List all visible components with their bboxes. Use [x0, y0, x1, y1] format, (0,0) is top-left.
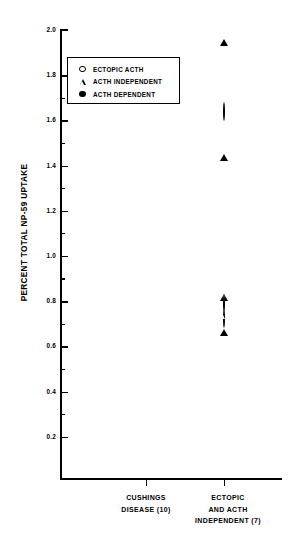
y-tick-label-0.8: 0.8 [47, 297, 56, 304]
y-tick-label-1.6: 1.6 [47, 116, 56, 123]
y-axis-line [60, 29, 62, 479]
y-axis-label: PERCENT TOTAL NP-59 UPTAKE [20, 133, 29, 333]
y-tick-minor-1.3 [60, 188, 65, 189]
data-point [220, 137, 228, 155]
y-tick-0.4 [60, 392, 68, 393]
legend: ECTOPIC ACTH ACTH INDEPENDENT ACTH DEPEN… [67, 57, 180, 104]
y-tick-minor-0.9 [60, 278, 65, 279]
y-tick-label-2.0: 2.0 [47, 26, 56, 33]
y-tick-minor-1.7 [60, 98, 65, 99]
y-tick-label-1.4: 1.4 [47, 162, 56, 169]
y-tick-1.6 [60, 120, 68, 121]
y-tick-1.4 [60, 166, 68, 167]
y-tick-label-0.6: 0.6 [47, 342, 56, 349]
y-tick-minor-0.3 [60, 414, 65, 415]
y-tick-label-0.2: 0.2 [47, 433, 56, 440]
x-group-label-ectopic: ECTOPIC AND ACTH INDEPENDENT (7) [168, 492, 288, 527]
y-tick-1.0 [60, 256, 68, 257]
legend-item-ectopic-acth: ECTOPIC ACTH [76, 63, 143, 76]
x-tick-ectopic [224, 478, 225, 486]
legend-item-acth-dependent: ACTH DEPENDENT [76, 88, 155, 101]
y-tick-label-1.8: 1.8 [47, 71, 56, 78]
y-tick-1.2 [60, 211, 68, 212]
y-tick-0.8 [60, 301, 68, 302]
y-tick-0.2 [60, 437, 68, 438]
legend-item-acth-independent: ACTH INDEPENDENT [76, 75, 162, 88]
data-point [220, 312, 228, 330]
y-tick-0.6 [60, 346, 68, 347]
open-triangle-icon [76, 79, 89, 85]
y-tick-minor-1.5 [60, 143, 65, 144]
legend-label: ACTH DEPENDENT [93, 91, 155, 98]
x-axis-line [60, 478, 282, 480]
open-circle-icon [76, 66, 89, 73]
y-tick-minor-0.7 [60, 324, 65, 325]
scatter-plot-figure: PERCENT TOTAL NP-59 UPTAKE 2.0 1.8 1.6 1… [0, 0, 289, 537]
y-tick-label-0.4: 0.4 [47, 388, 56, 395]
data-point [220, 22, 228, 40]
legend-label: ACTH INDEPENDENT [93, 78, 162, 85]
y-tick-label-1.2: 1.2 [47, 207, 56, 214]
y-tick-minor-1.1 [60, 233, 65, 234]
y-tick-minor-0.5 [60, 369, 65, 370]
y-tick-2.0 [60, 30, 68, 31]
filled-circle-icon [76, 91, 89, 97]
legend-label: ECTOPIC ACTH [93, 66, 143, 73]
x-tick-cushings [146, 478, 147, 486]
y-tick-label-1.0: 1.0 [47, 252, 56, 259]
data-point [223, 103, 225, 121]
